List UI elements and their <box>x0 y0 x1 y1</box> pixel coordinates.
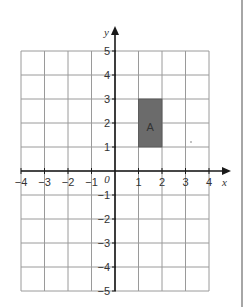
y-tick-label: 4 <box>104 69 110 81</box>
x-tick-label: −1 <box>85 176 98 188</box>
origin-label: 0 <box>104 173 110 185</box>
y-tick-label: 1 <box>104 141 110 153</box>
y-tick-label: −4 <box>97 261 110 273</box>
x-tick-label: 2 <box>159 176 165 188</box>
stray-dot <box>190 141 192 143</box>
x-tick-label: 4 <box>206 176 212 188</box>
shape-label: A <box>147 121 155 133</box>
coordinate-grid-figure: A−4−3−2−1123454321−1−2−3−4−50xy <box>0 0 249 307</box>
x-axis-label: x <box>221 176 227 188</box>
y-axis-arrow-icon <box>111 26 119 35</box>
y-tick-label: 5 <box>104 45 110 57</box>
y-tick-label: −3 <box>97 237 110 249</box>
y-tick-label: 3 <box>104 93 110 105</box>
x-tick-label: −2 <box>62 176 75 188</box>
x-tick-label: −4 <box>15 176 28 188</box>
y-axis-label: y <box>103 26 109 38</box>
y-tick-label: 2 <box>104 117 110 129</box>
y-tick-label: −5 <box>97 285 110 297</box>
coordinate-plane: A−4−3−2−1123454321−1−2−3−4−50xy <box>0 0 249 307</box>
y-tick-label: −1 <box>97 189 110 201</box>
x-axis-arrow-icon <box>222 167 231 175</box>
x-tick-label: 1 <box>135 176 141 188</box>
x-tick-label: 3 <box>182 176 188 188</box>
y-tick-label: −2 <box>97 213 110 225</box>
x-tick-label: −3 <box>38 176 51 188</box>
